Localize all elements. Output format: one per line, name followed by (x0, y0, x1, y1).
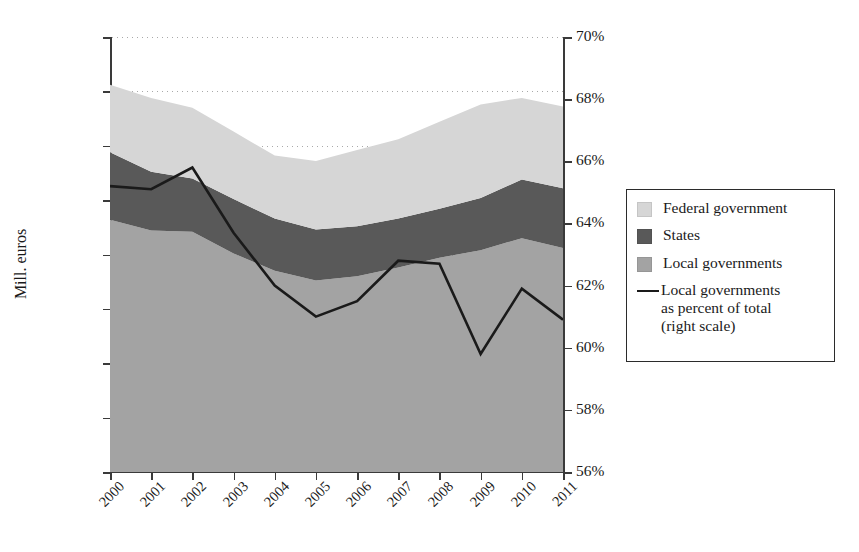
y-axis-right-tick (565, 99, 572, 101)
x-axis-tick (563, 473, 565, 480)
y-axis-right-tick (565, 472, 572, 474)
x-axis-tick-label: 2002 (178, 478, 211, 511)
legend-item-local-percent-line: Local governments as percent of total (r… (637, 281, 826, 336)
y-axis-right-tick-label: 70% (576, 28, 604, 44)
x-axis-tick (151, 473, 153, 480)
y-axis-right-tick-label: 64% (576, 214, 604, 230)
y-axis-right-tick-label: 56% (576, 463, 604, 479)
x-axis-tick-label: 2009 (466, 478, 499, 511)
x-axis-tick-label: 2011 (549, 478, 581, 510)
legend-label-local-governments: Local governments (663, 254, 782, 272)
legend-line-marker-icon (637, 284, 659, 297)
y-axis-right-tick-label: 68% (576, 90, 604, 106)
x-axis-tick (398, 473, 400, 480)
x-axis-tick-label: 2007 (384, 478, 417, 511)
y-axis-right-tick (565, 348, 572, 350)
x-axis-tick-label: 2000 (95, 478, 128, 511)
x-axis-tick (275, 473, 277, 480)
y-axis-right-tick (565, 286, 572, 288)
legend-item-local-governments: Local governments (637, 254, 826, 272)
x-axis-tick (234, 473, 236, 480)
x-axis-tick (522, 473, 524, 480)
y-axis-right-tick (565, 410, 572, 412)
x-axis-tick (481, 473, 483, 480)
y-axis-right-tick-label: 58% (576, 401, 604, 417)
legend-swatch-states (637, 229, 652, 244)
y-axis-left-tick (103, 91, 110, 93)
y-axis-left-tick (103, 363, 110, 365)
x-axis-tick (316, 473, 318, 480)
y-axis-right-tick (565, 37, 572, 39)
legend-label-line-1: Local governments (661, 281, 780, 298)
x-axis-tick (192, 473, 194, 480)
y-axis-right-tick (565, 223, 572, 225)
x-axis-tick-label: 2005 (301, 478, 334, 511)
x-axis-tick (110, 473, 112, 480)
legend-swatch-local-governments (637, 257, 652, 272)
y-axis-right-tick-label: 62% (576, 277, 604, 293)
y-axis-right-tick-label: 66% (576, 152, 604, 168)
legend-label-line-3: (right scale) (661, 317, 735, 334)
y-axis-left-labels: 0500010 00015 00020 00025 00030 00035 00… (0, 0, 100, 552)
x-axis-tick-label: 2001 (137, 478, 170, 511)
y-axis-left-tick (103, 472, 110, 474)
x-axis-tick-label: 2004 (260, 478, 293, 511)
y-axis-left-tick (103, 146, 110, 148)
stacked-area-plot (110, 37, 563, 472)
legend-label-states: States (663, 226, 700, 244)
y-axis-left-tick (103, 37, 110, 39)
y-axis-left-tick (103, 200, 110, 202)
legend-item-states: States (637, 226, 826, 244)
legend-label-line-2: as percent of total (661, 299, 772, 316)
chart-root: Mill. euros 0500010 00015 00020 00025 00… (0, 0, 859, 552)
plot-area (110, 37, 563, 472)
x-axis-tick-label: 2003 (219, 478, 252, 511)
y-axis-left-tick (103, 255, 110, 257)
y-axis-right-tick (565, 161, 572, 163)
y-axis-right-line (563, 37, 565, 473)
y-axis-left-tick (103, 418, 110, 420)
legend-swatch-federal-government (637, 202, 652, 217)
x-axis-tick-label: 2010 (507, 478, 540, 511)
legend-item-federal-government: Federal government (637, 199, 826, 217)
y-axis-left-tick (103, 309, 110, 311)
x-axis-tick-label: 2006 (343, 478, 376, 511)
chart-legend: Federal government States Local governme… (626, 189, 835, 362)
x-axis-tick-label: 2008 (425, 478, 458, 511)
x-axis-tick (357, 473, 359, 480)
y-axis-right-tick-label: 60% (576, 339, 604, 355)
legend-label-federal-government: Federal government (663, 199, 787, 217)
legend-label-local-percent-line: Local governments as percent of total (r… (661, 281, 780, 336)
x-axis-tick (439, 473, 441, 480)
